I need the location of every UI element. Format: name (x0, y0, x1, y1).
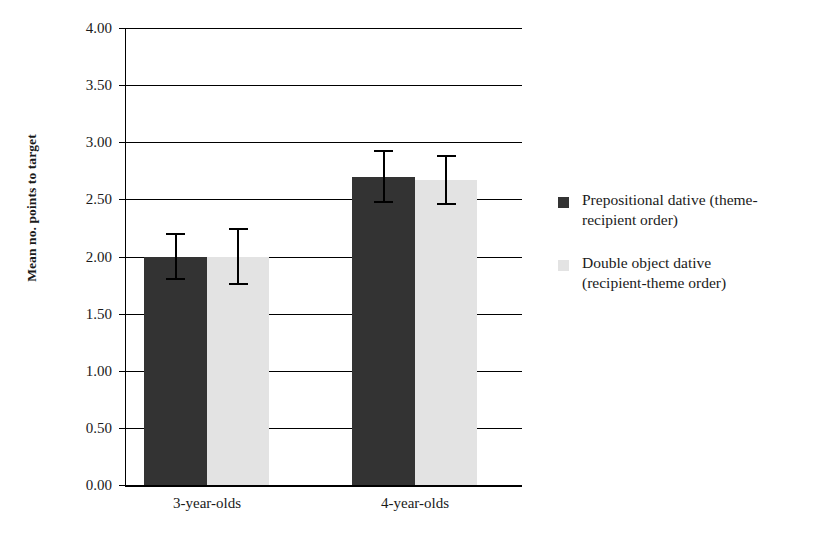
error-bar-cap-bottom (229, 283, 248, 285)
y-axis-tick-mark (119, 257, 131, 258)
gridline (125, 142, 522, 143)
y-axis-tick-mark (119, 371, 131, 372)
y-axis-tick-label: 3.50 (56, 78, 112, 93)
y-axis-tick-label: 4.00 (56, 21, 112, 36)
y-axis-tick-mark (119, 85, 131, 86)
x-axis-category-label: 4-year-olds (381, 495, 449, 512)
legend-swatch (558, 197, 569, 208)
y-axis-tick-label: 0.00 (56, 478, 112, 493)
error-bar-stem (383, 150, 385, 203)
legend-label: Prepositional dative (theme-recipient or… (582, 191, 758, 228)
error-bar-cap-bottom (437, 203, 456, 205)
bar (415, 180, 477, 485)
gridline (125, 85, 522, 86)
chart-legend: Prepositional dative (theme-recipient or… (558, 190, 820, 316)
error-bar-cap-bottom (374, 201, 393, 203)
legend-item: Double object dative(recipient-theme ord… (558, 253, 820, 294)
y-axis-tick-mark (119, 142, 131, 143)
gridline (125, 28, 522, 29)
error-bar-stem (445, 155, 447, 205)
y-axis-tick-mark (119, 485, 131, 486)
bar (144, 257, 207, 486)
x-axis-category-label: 3-year-olds (173, 495, 241, 512)
gridline (125, 485, 522, 487)
error-bar-cap-bottom (166, 278, 185, 280)
chart-figure: Mean no. points to target 4.003.503.002.… (0, 0, 822, 539)
y-axis-tick-label: 3.00 (56, 135, 112, 150)
bar (352, 177, 415, 485)
error-bar (144, 233, 207, 281)
error-bar (352, 150, 415, 203)
error-bar-stem (237, 228, 239, 285)
error-bar (415, 155, 477, 205)
error-bar (207, 228, 269, 285)
bar (207, 257, 269, 486)
legend-item: Prepositional dative (theme-recipient or… (558, 190, 820, 231)
y-axis-tick-label: 2.50 (56, 192, 112, 207)
y-axis-tick-label: 0.50 (56, 420, 112, 435)
y-axis-tick-labels: 4.003.503.002.502.001.501.000.500.00 (56, 0, 112, 539)
y-axis-title: Mean no. points to target (24, 68, 40, 348)
y-axis-tick-label: 1.50 (56, 306, 112, 321)
y-axis-tick-label: 1.00 (56, 363, 112, 378)
legend-label: Double object dative(recipient-theme ord… (582, 254, 726, 291)
y-axis-tick-mark (119, 28, 131, 29)
y-axis-tick-mark (119, 314, 131, 315)
legend-swatch (558, 260, 569, 271)
y-axis-tick-mark (119, 428, 131, 429)
error-bar-stem (175, 233, 177, 281)
y-axis-tick-mark (119, 199, 131, 200)
plot-area (125, 28, 522, 485)
y-axis-tick-label: 2.00 (56, 249, 112, 264)
